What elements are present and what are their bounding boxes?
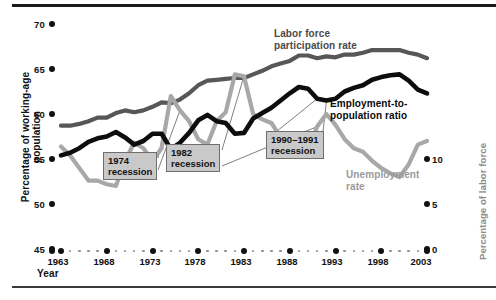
epr-label-line1: Employment-to-	[330, 98, 408, 109]
callout-1974-year: 1974	[108, 155, 152, 166]
plot-area	[0, 0, 496, 300]
epr-label-line2: population ratio	[330, 110, 407, 121]
callout-1982-year: 1982	[171, 147, 215, 158]
lfp-label-line1: Labor force	[274, 28, 330, 39]
callout-1974-recession: 1974 recession	[103, 152, 157, 180]
series-label-labor-force-participation-rate: Labor force participation rate	[274, 28, 357, 51]
ur-label-line1: Unemployment	[346, 169, 419, 180]
callout-1990-1991-recession: 1990–1991 recession	[266, 131, 324, 159]
ur-label-line2: rate	[346, 181, 365, 192]
callout-1990-word: recession	[271, 145, 319, 156]
callout-1982-word: recession	[171, 158, 215, 169]
callout-1982-recession: 1982 recession	[166, 144, 220, 172]
lfp-label-line2: participation rate	[274, 40, 357, 51]
chart-figure: Percentage of working-age population Per…	[0, 0, 496, 300]
callout-1974-word: recession	[108, 166, 152, 177]
callout-1990-year: 1990–1991	[271, 134, 319, 145]
series-label-employment-to-population-ratio: Employment-to- population ratio	[330, 98, 408, 121]
series-label-unemployment-rate: Unemployment rate	[346, 169, 419, 192]
